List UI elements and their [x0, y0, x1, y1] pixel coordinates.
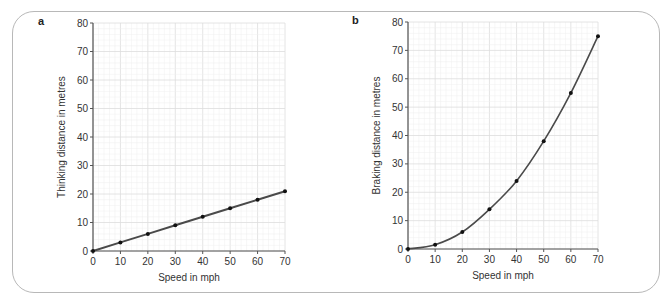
svg-text:60: 60	[392, 73, 404, 84]
svg-text:40: 40	[511, 254, 523, 265]
x-axis-label-b: Speed in mph	[472, 270, 534, 281]
svg-text:40: 40	[392, 130, 404, 141]
panel-label-b: b	[352, 14, 359, 26]
svg-text:60: 60	[565, 254, 577, 265]
svg-text:20: 20	[457, 254, 469, 265]
svg-text:80: 80	[392, 17, 404, 28]
svg-text:0: 0	[405, 254, 411, 265]
svg-text:30: 30	[392, 158, 404, 169]
svg-text:50: 50	[392, 102, 404, 113]
svg-text:10: 10	[430, 254, 442, 265]
svg-text:10: 10	[392, 215, 404, 226]
y-ticks-b: 01020304050607080	[392, 17, 408, 255]
svg-text:20: 20	[392, 187, 404, 198]
svg-text:0: 0	[397, 244, 403, 255]
svg-text:70: 70	[592, 254, 604, 265]
y-axis-label-b: Braking distance in metres	[371, 77, 382, 195]
svg-text:30: 30	[484, 254, 496, 265]
svg-text:70: 70	[392, 45, 404, 56]
x-ticks-b: 010203040506070	[405, 249, 604, 265]
chart-braking-distance: b 01020304050607080 010203040506070 Brak…	[0, 0, 668, 306]
series-line-b	[408, 36, 598, 249]
grid-b	[408, 22, 598, 249]
svg-text:50: 50	[538, 254, 550, 265]
